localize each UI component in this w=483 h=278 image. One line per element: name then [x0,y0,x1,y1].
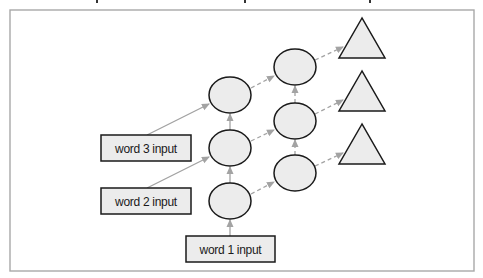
layer1-node-middle [209,130,251,166]
cropped-text-fragments [96,0,371,3]
rnn-diagram: word 3 input word 2 input word 1 input [0,0,483,278]
layer1-node-top [209,77,251,113]
input-label-word1: word 1 input [199,243,263,257]
layer2-node-middle [274,103,316,139]
input-label-word3: word 3 input [114,142,178,156]
layer1-node-bottom [209,183,251,219]
layer2-node-bottom [274,155,316,191]
input-word3: word 3 input [101,135,191,161]
input-word2: word 2 input [101,188,191,214]
layer2 [274,49,316,191]
input-word1: word 1 input [186,236,275,262]
layer2-node-top [274,49,316,85]
layer1 [209,77,251,219]
input-label-word2: word 2 input [114,195,178,209]
